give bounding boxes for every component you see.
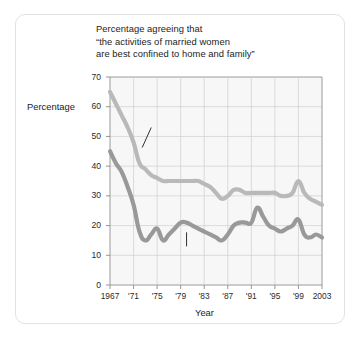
line-chart-plot (0, 0, 361, 340)
plot-background (110, 77, 322, 285)
